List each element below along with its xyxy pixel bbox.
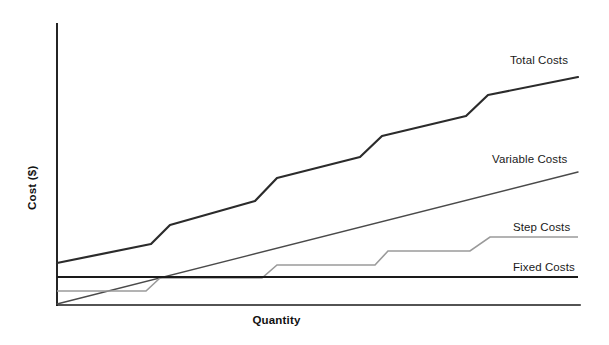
series-label-total-costs: Total Costs bbox=[510, 54, 568, 66]
y-axis-title: Cost ($) bbox=[26, 166, 38, 210]
series-label-variable-costs: Variable Costs bbox=[492, 153, 567, 165]
series-label-fixed-costs: Fixed Costs bbox=[513, 261, 575, 273]
x-axis-title: Quantity bbox=[0, 314, 581, 326]
series-line-total-costs bbox=[57, 77, 578, 263]
chart-plot-area bbox=[0, 0, 609, 345]
cost-behavior-chart: Cost ($) Quantity Total Costs Variable C… bbox=[0, 0, 609, 345]
series-line-step-costs bbox=[57, 237, 578, 291]
series-label-step-costs: Step Costs bbox=[513, 221, 570, 233]
series-line-variable-costs bbox=[57, 172, 578, 304]
